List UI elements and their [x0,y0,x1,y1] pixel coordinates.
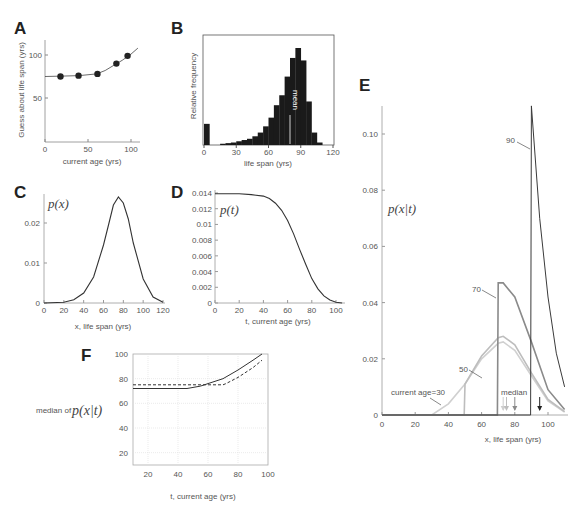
b-xlabel: life span (yrs) [244,159,292,168]
f-series-dashed [133,360,262,385]
tick-label: 0 [380,420,385,429]
tick-label: 60 [119,399,128,408]
tick-label: 100 [329,306,343,315]
tick-label: 40 [79,306,88,315]
e-label-70: 70 [472,285,481,294]
c-xlabel: x, life span (yrs) [75,322,132,331]
b-histogram-bar [285,77,291,145]
tick-label: 40 [174,470,183,479]
f-ylabel-math: p(x|t) [71,403,103,419]
a-data-point [57,73,63,79]
b-histogram-bar [220,144,226,145]
tick-label: 100 [115,350,129,359]
b-histogram-bar [258,133,264,145]
a-data-point [113,60,119,66]
b-histogram-bar [301,60,307,145]
tick-label: 50 [84,145,93,154]
tick-label: 0 [202,148,207,157]
f-series-solid [133,354,262,389]
tick-label: 0.08 [362,186,378,195]
c-label: p(x) [47,196,69,211]
b-ylabel: Relative frequency [189,53,198,119]
tick-label: 0.008 [192,236,213,245]
tick-label: 60 [99,306,108,315]
tick-label: 0 [374,411,379,420]
tick-label: 100 [124,145,138,154]
f-xlabel: t, current age (yrs) [170,492,236,501]
tick-label: 0 [42,306,47,315]
tick-label: 0 [43,145,48,154]
e-series-current-age-30 [382,342,565,415]
b-histogram-bar [231,143,237,145]
e-label-age30: current age=30 [391,388,446,397]
panel-letter-d: D [171,183,183,202]
tick-label: 100 [29,51,43,60]
a-data-point [94,71,100,77]
tick-label: 60 [283,306,292,315]
tick-label: 40 [444,420,453,429]
tick-label: 80 [119,375,128,384]
median-arrow-icon [512,406,517,411]
tick-label: 0 [36,299,41,308]
tick-label: 0 [208,299,213,308]
b-histogram-bar [204,124,210,145]
d-xlabel: t, current age (yrs) [245,317,311,326]
a-ylabel: Guess about life span (yrs) [17,42,26,138]
e-label: p(x|t) [387,201,416,216]
f-ylabel-prefix: median of [36,406,72,415]
b-histogram-bar [242,140,248,145]
median-arrow-icon [537,406,542,411]
b-histogram-bar [263,126,269,145]
chart-c: 02040608010012000.010.02 p(x) x, life sp… [24,194,170,331]
tick-label: 120 [156,306,170,315]
e-series-50 [382,336,565,415]
b-histogram-bar [274,105,280,145]
tick-label: 0.10 [362,130,378,139]
b-histogram-bar [317,143,323,145]
a-xlabel: current age (yrs) [63,157,122,166]
chart-b: 0306090120 mean life span (yrs) Relative… [189,35,340,168]
tick-label: 80 [119,306,128,315]
tick-label: 0.004 [192,268,213,277]
tick-label: 60 [204,470,213,479]
b-histogram-bar [247,139,253,145]
b-histogram-bar [306,101,312,145]
tick-label: 90 [296,148,305,157]
tick-label: 100 [541,420,555,429]
tick-label: 30 [232,148,241,157]
e-label-90: 90 [506,136,515,145]
tick-label: 20 [411,420,420,429]
tick-label: 0.002 [192,283,213,292]
e-xlabel: x, life span (yrs) [485,435,542,444]
tick-label: 50 [33,94,42,103]
b-histogram-bar [279,95,285,145]
tick-label: 40 [119,424,128,433]
panel-letter-b: B [171,19,183,38]
tick-label: 0.012 [192,205,213,214]
b-histogram-bar [269,118,275,145]
a-data-point [75,72,81,78]
tick-label: 0 [213,306,218,315]
panel-letter-e: E [359,76,370,95]
d-label: p(t) [219,202,239,217]
tick-label: 0.01 [24,259,40,268]
tick-label: 0.04 [362,299,378,308]
tick-label: 80 [307,306,316,315]
tick-label: 0.02 [24,219,40,228]
panel-letter-f: F [81,346,91,365]
panel-letter-a: A [14,19,26,38]
tick-label: 100 [261,470,275,479]
median-arrow-icon [504,406,509,411]
b-mean-label: mean [291,90,300,110]
tick-label: 0.01 [196,220,212,229]
chart-f: 2040608010020406080100 median of p(x|t) … [36,350,275,501]
panel-letter-c: C [14,183,26,202]
figure-canvas: A B C D E F 05010050100 current age (yrs… [0,0,583,515]
tick-label: 0.006 [192,252,213,261]
e-label-median: median [501,388,527,397]
chart-a: 05010050100 current age (yrs) Guess abou… [17,40,140,166]
tick-label: 80 [510,420,519,429]
tick-label: 20 [59,306,68,315]
a-fit-curve [45,48,138,76]
tick-label: 20 [235,306,244,315]
